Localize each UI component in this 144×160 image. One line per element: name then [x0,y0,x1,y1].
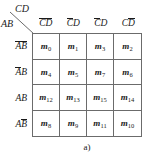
kmap-cell-r3-c0: m8 [33,111,60,137]
minterm-label: m13 [66,92,80,102]
kmap-grid: m0m1m3m2m4m5m7m6m12m13m15m14m8m9m11m10 [32,33,142,137]
minterm-label: m10 [121,118,135,128]
row-header-0: AB [0,33,31,59]
kmap-cell-r1-c2: m7 [87,60,114,86]
minterm-label: m3 [95,41,105,51]
kmap-cell-r0-c3: m2 [114,34,141,60]
row-header-3: AB [0,111,31,137]
kmap-corner-header: CD AB [0,4,34,34]
minterm-label: m7 [95,67,105,77]
minterm-label: m8 [41,118,51,128]
row-header-2: AB [0,85,31,111]
figure-caption: a) [32,142,142,152]
minterm-label: m11 [93,118,106,128]
minterm-label: m1 [68,41,78,51]
kmap-cell-r2-c1: m13 [60,85,87,111]
kmap-row-headers: AB AB AB AB [0,33,31,137]
kmap-cell-r0-c0: m0 [33,34,60,60]
kmap-cell-r1-c3: m6 [114,60,141,86]
kmap-column-headers: CD CD CD CD [32,16,142,32]
kmap-cell-r2-c0: m12 [33,85,60,111]
minterm-label: m12 [39,92,53,102]
kmap-cell-r3-c1: m9 [60,111,87,137]
kmap-figure: CD AB CD CD CD CD AB AB AB AB m0m1m3m2m4… [0,0,144,160]
column-header-0: CD [32,16,60,32]
minterm-label: m4 [41,67,51,77]
kmap-cell-r2-c2: m15 [87,85,114,111]
kmap-cell-r0-c1: m1 [60,34,87,60]
kmap-cell-r1-c0: m4 [33,60,60,86]
minterm-label: m2 [122,41,132,51]
kmap-cell-r0-c2: m3 [87,34,114,60]
kmap-cell-r1-c1: m5 [60,60,87,86]
minterm-label: m0 [41,41,51,51]
minterm-label: m9 [68,118,78,128]
minterm-label: m14 [121,92,135,102]
row-header-1: AB [0,59,31,85]
minterm-label: m5 [68,67,78,77]
kmap-cell-r3-c3: m10 [114,111,141,137]
minterm-label: m15 [93,92,107,102]
minterm-label: m6 [122,67,132,77]
column-header-2: CD [87,16,115,32]
kmap-cell-r3-c2: m11 [87,111,114,137]
kmap-cell-r2-c3: m14 [114,85,141,111]
column-header-1: CD [60,16,88,32]
column-header-3: CD [115,16,143,32]
